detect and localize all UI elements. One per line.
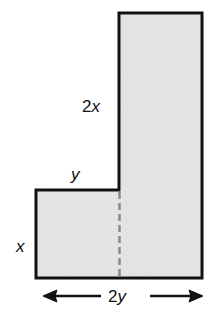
label-step-side: x [15, 237, 25, 256]
label-step-top: y [70, 165, 81, 184]
label-bottom-width: 2y [108, 287, 127, 306]
l-shape-diagram: 2x y x 2y [0, 0, 218, 329]
label-tall-side: 2x [82, 97, 100, 116]
